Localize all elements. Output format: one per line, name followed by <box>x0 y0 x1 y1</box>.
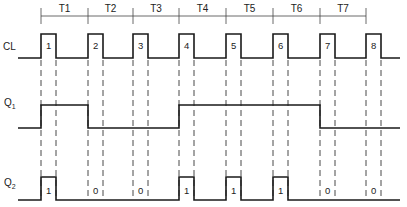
clock-pulse-number: 2 <box>93 40 98 51</box>
period-label: T4 <box>197 3 209 14</box>
signal-labels: CLQ1Q2 <box>3 41 16 190</box>
timing-diagram: T1T2T3T4T5T6T7 12345678 10011100 CLQ1Q2 <box>0 0 407 207</box>
label-q1: Q1 <box>4 97 16 110</box>
period-label: T7 <box>337 3 349 14</box>
clock-pulse-number: 4 <box>184 40 189 51</box>
label-cl: CL <box>3 41 16 52</box>
clock-pulse-number: 7 <box>325 40 330 51</box>
q2-pulse-value: 0 <box>371 185 376 196</box>
q2-pulse-value: 1 <box>46 185 51 196</box>
clock-pulse-number: 1 <box>46 40 51 51</box>
q2-pulse-value: 1 <box>231 185 236 196</box>
period-bracket: T1T2T3T4T5T6T7 <box>41 3 366 24</box>
period-label: T1 <box>59 3 71 14</box>
q2-pulse-value: 0 <box>138 185 143 196</box>
q2-pulse-value: 1 <box>278 185 283 196</box>
q2-pulse-value: 0 <box>93 185 98 196</box>
period-label: T2 <box>105 3 117 14</box>
clock-pulse-number: 5 <box>231 40 236 51</box>
clock-signal: 12345678 <box>18 34 400 58</box>
label-q2: Q2 <box>4 177 16 190</box>
period-label: T5 <box>244 3 256 14</box>
clock-pulse-number: 8 <box>371 40 376 51</box>
period-label: T6 <box>291 3 303 14</box>
q1-signal <box>18 105 400 128</box>
clock-pulse-number: 6 <box>278 40 283 51</box>
period-label: T3 <box>150 3 162 14</box>
q2-pulse-value: 1 <box>184 185 189 196</box>
q2-pulse-value: 0 <box>325 185 330 196</box>
q2-signal: 10011100 <box>18 177 400 200</box>
clock-edge-guides <box>41 60 381 198</box>
clock-pulse-number: 3 <box>138 40 143 51</box>
